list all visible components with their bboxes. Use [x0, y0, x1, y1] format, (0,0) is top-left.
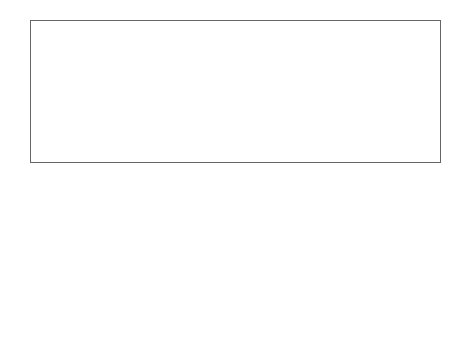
panel [31, 21, 441, 163]
border [31, 21, 441, 163]
diagram-border [31, 21, 441, 163]
frame-border [31, 21, 441, 163]
frame [31, 21, 441, 163]
frame-main [31, 21, 441, 163]
diagram-frame [31, 21, 441, 163]
frame-outline [31, 21, 441, 163]
panel-border [31, 21, 441, 163]
diagram-panel [31, 21, 441, 163]
outer-frame [31, 21, 441, 163]
eye-diagram [0, 0, 475, 353]
frame-box [31, 21, 441, 163]
